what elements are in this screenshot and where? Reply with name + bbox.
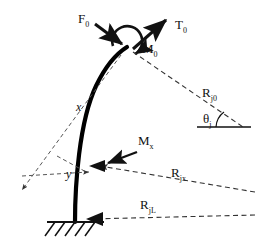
- angle-subscript: j: [209, 120, 211, 129]
- axis-line-y-helper: [57, 156, 88, 173]
- tip-moment-label: M0: [142, 42, 158, 59]
- diagram-canvas: [0, 0, 263, 250]
- angle-label: θj: [203, 112, 211, 129]
- range-line-base: [90, 215, 255, 219]
- coord-y-label: y: [66, 168, 71, 180]
- tip-force-arrow: [95, 24, 122, 44]
- range-top-symbol: R: [202, 85, 211, 100]
- tip-tension-symbol: T: [175, 17, 183, 32]
- support-hatching: [45, 222, 95, 236]
- tip-moment-symbol: M: [142, 41, 154, 56]
- tip-tension-label: T0: [175, 18, 187, 35]
- range-mid-subscript: jx: [180, 174, 186, 183]
- section-moment-arrow: [108, 152, 137, 163]
- free-body-diagram: F0 T0 M0 Rj0 θj Rjx RjL Mx x y: [0, 0, 263, 250]
- range-line-top: [133, 52, 243, 127]
- range-base-subscript: jL: [149, 206, 156, 215]
- range-top-label: Rj0: [202, 86, 217, 103]
- section-moment-symbol: M: [138, 133, 150, 148]
- range-mid-symbol: R: [171, 165, 180, 180]
- range-top-subscript: j0: [211, 94, 217, 103]
- range-base-label: RjL: [140, 198, 156, 215]
- section-moment-subscript: x: [150, 142, 154, 151]
- range-mid-label: Rjx: [171, 166, 186, 183]
- axis-line-x: [22, 55, 121, 190]
- tip-force-label: F0: [78, 12, 89, 29]
- coord-x-label: x: [76, 101, 81, 113]
- section-moment-label: Mx: [138, 134, 154, 151]
- section-pointer-arrowhead: [89, 160, 105, 172]
- tip-tension-subscript: 0: [183, 26, 187, 35]
- beam-curve: [75, 47, 127, 222]
- tip-moment-subscript: 0: [154, 50, 158, 59]
- angle-arc: [216, 112, 224, 127]
- tip-force-subscript: 0: [85, 20, 89, 29]
- range-base-symbol: R: [140, 197, 149, 212]
